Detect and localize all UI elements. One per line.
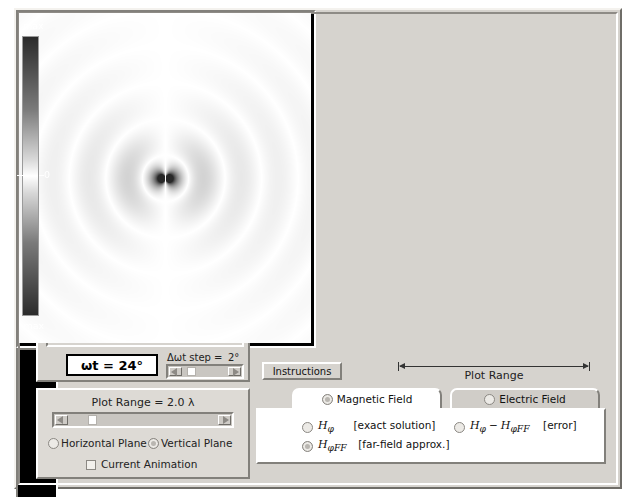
option-h-phi-exact-subscript: φ	[328, 423, 334, 434]
option-h-phi-ff: HφFF [far-field approx.]	[318, 438, 449, 453]
radio-horizontal-plane-label: Horizontal Plane	[61, 437, 147, 449]
colorbar-tick-left	[17, 175, 23, 176]
colorbar-max-label: max	[23, 20, 44, 31]
radio-h-phi-error[interactable]	[454, 422, 465, 433]
colorbar-zero-label: 0	[44, 169, 50, 180]
step-slider-right-arrow[interactable]	[228, 367, 241, 376]
step-slider-thumb[interactable]	[187, 367, 196, 376]
plot-range-slider-right-arrow[interactable]	[218, 415, 231, 425]
option-h-phi-exact-note: [exact solution]	[354, 419, 436, 431]
instructions-button[interactable]: Instructions	[262, 362, 342, 380]
field-options-body: Hφ [exact solution] HφFF [far-field appr…	[256, 408, 606, 464]
plot-range-annotation-label: Plot Range	[396, 369, 592, 382]
option-h-phi-error-minus: −	[489, 419, 498, 431]
step-slider-left-arrow[interactable]	[169, 367, 182, 376]
plot-range-heading: Plot Range = 2.0 λ	[38, 396, 248, 409]
field-plot-canvas[interactable]	[19, 13, 311, 343]
colorbar-neg-max-label: -max	[20, 320, 44, 331]
option-h-phi-error: Hφ−HφFF [error]	[470, 419, 577, 434]
option-h-phi-ff-subscript: φFF	[328, 442, 347, 453]
option-h-phi-error-symbol-2: H	[501, 419, 511, 432]
step-label: Δωt step =	[167, 352, 223, 363]
option-h-phi-error-subscript-2: φFF	[510, 423, 529, 434]
field-plot-frame	[16, 10, 316, 348]
applet-window: Module 9.1 Hertzian Dipole ( l << λ)	[14, 8, 622, 489]
colorbar-gradient	[22, 36, 39, 316]
radio-horizontal-plane[interactable]	[48, 438, 59, 449]
tab-electric-field[interactable]: Electric Field	[450, 388, 600, 408]
checkbox-current-animation[interactable]	[86, 460, 96, 470]
plot-range-annotation: Plot Range	[396, 362, 592, 382]
radio-h-phi-exact[interactable]	[302, 422, 313, 433]
checkbox-current-animation-label: Current Animation	[101, 458, 197, 470]
plot-range-slider-thumb[interactable]	[88, 415, 97, 425]
step-value: 2°	[228, 352, 239, 363]
plot-range-panel: Plot Range = 2.0 λ Horizontal Plane Vert…	[36, 388, 250, 479]
tab-electric-field-radio[interactable]	[484, 394, 495, 405]
radio-vertical-plane-label: Vertical Plane	[161, 437, 232, 449]
tab-magnetic-field-radio[interactable]	[322, 394, 333, 405]
step-size-slider[interactable]	[166, 364, 244, 379]
option-h-phi-exact-symbol: H	[318, 419, 328, 432]
option-h-phi-exact: Hφ [exact solution]	[318, 419, 435, 434]
radio-h-phi-ff[interactable]	[302, 441, 313, 452]
radio-vertical-plane[interactable]	[148, 438, 159, 449]
field-selection-tabs: Magnetic Field Electric Field Hφ [exact …	[256, 388, 606, 479]
option-h-phi-error-note: [error]	[543, 419, 577, 431]
tab-magnetic-field-label: Magnetic Field	[337, 393, 413, 405]
tab-electric-field-label: Electric Field	[499, 393, 565, 405]
omega-t-display: ωt = 24°	[66, 354, 158, 376]
plot-range-slider-left-arrow[interactable]	[55, 415, 68, 425]
option-h-phi-ff-note: [far-field approx.]	[358, 438, 449, 450]
tab-magnetic-field[interactable]: Magnetic Field	[292, 388, 442, 408]
screenshot-root: Module 9.1 Hertzian Dipole ( l << λ)	[0, 0, 636, 497]
plot-range-slider[interactable]	[52, 412, 234, 428]
plot-range-annotation-line	[400, 366, 588, 367]
option-h-phi-error-subscript-1: φ	[480, 423, 486, 434]
option-h-phi-ff-symbol: H	[318, 438, 328, 451]
option-h-phi-error-symbol-1: H	[470, 419, 480, 432]
